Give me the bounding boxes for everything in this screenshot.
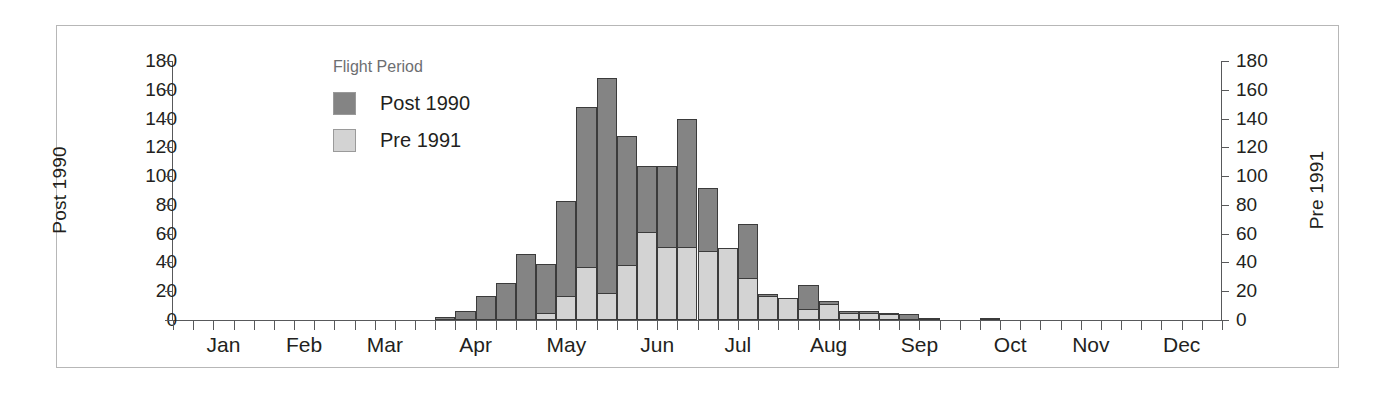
legend-label-pre-1991: Pre 1991 <box>380 129 461 152</box>
x-tick-mark <box>375 321 376 330</box>
bar-pre-week-28 <box>718 248 738 320</box>
x-tick-mark <box>1182 321 1183 330</box>
left-y-tick-mark <box>165 147 172 148</box>
left-y-tick-mark <box>165 205 172 206</box>
right-y-tick-label: 100 <box>1236 166 1268 186</box>
bar-pre-week-27 <box>698 251 718 320</box>
x-tick-mark <box>254 321 255 330</box>
x-tick-mark <box>940 321 941 330</box>
x-tick-mark <box>1061 321 1062 330</box>
right-y-tick-mark <box>1222 234 1229 235</box>
right-y-tick-mark <box>1222 147 1229 148</box>
x-tick-mark <box>496 321 497 330</box>
x-tick-mark <box>1101 321 1102 330</box>
x-tick-mark <box>879 321 880 330</box>
x-tick-mark <box>314 321 315 330</box>
x-tick-mark <box>899 321 900 330</box>
left-y-tick-mark <box>165 234 172 235</box>
x-tick-mark <box>698 321 699 330</box>
bar-post-week-14 <box>435 317 455 320</box>
x-tick-mark <box>1222 321 1223 330</box>
x-tick-mark <box>294 321 295 330</box>
x-tick-mark <box>334 321 335 330</box>
bar-pre-week-31 <box>778 298 798 320</box>
legend-title: Flight Period <box>333 58 470 76</box>
x-axis-line <box>172 320 1222 321</box>
x-tick-mark <box>455 321 456 330</box>
right-y-tick-label: 180 <box>1236 51 1268 71</box>
x-tick-mark <box>1040 321 1041 330</box>
bar-pre-week-29 <box>738 278 758 320</box>
right-y-tick-mark <box>1222 90 1229 91</box>
x-tick-mark <box>576 321 577 330</box>
x-tick-mark <box>718 321 719 330</box>
x-month-label-nov: Nov <box>1072 333 1109 357</box>
bar-pre-week-20 <box>556 296 576 320</box>
x-month-label-jun: Jun <box>640 333 674 357</box>
x-tick-mark <box>919 321 920 330</box>
x-month-label-jan: Jan <box>206 333 240 357</box>
x-tick-mark <box>1161 321 1162 330</box>
left-y-tick-mark <box>165 176 172 177</box>
x-tick-mark <box>859 321 860 330</box>
right-y-tick-mark <box>1222 176 1229 177</box>
bar-post-week-22 <box>597 78 617 320</box>
bar-pre-week-30 <box>758 296 778 320</box>
bar-pre-week-24 <box>637 232 657 320</box>
x-tick-mark <box>395 321 396 330</box>
left-y-tick-mark <box>165 291 172 292</box>
bar-pre-week-33 <box>819 304 839 320</box>
bar-pre-week-35 <box>859 313 879 320</box>
bar-post-week-38 <box>919 318 939 320</box>
x-tick-mark <box>1081 321 1082 330</box>
x-tick-mark <box>738 321 739 330</box>
right-y-tick-label: 80 <box>1236 195 1257 215</box>
x-tick-mark <box>657 321 658 330</box>
right-y-tick-label: 140 <box>1236 109 1268 129</box>
right-y-tick-label: 120 <box>1236 137 1268 157</box>
plot-area <box>173 61 1222 320</box>
legend-label-post-1990: Post 1990 <box>380 92 470 115</box>
x-month-label-mar: Mar <box>367 333 403 357</box>
x-tick-mark <box>173 321 174 330</box>
x-month-label-aug: Aug <box>810 333 847 357</box>
x-tick-mark <box>819 321 820 330</box>
left-y-tick-mark <box>165 320 172 321</box>
left-y-tick-mark <box>165 61 172 62</box>
right-y-tick-label: 20 <box>1236 281 1257 301</box>
right-y-tick-label: 0 <box>1236 310 1247 330</box>
x-tick-mark <box>274 321 275 330</box>
x-tick-mark <box>1000 321 1001 330</box>
x-month-label-oct: Oct <box>994 333 1027 357</box>
x-tick-mark <box>415 321 416 330</box>
x-tick-mark <box>617 321 618 330</box>
x-tick-mark <box>778 321 779 330</box>
x-tick-mark <box>193 321 194 330</box>
x-tick-mark <box>960 321 961 330</box>
bar-post-week-16 <box>476 296 496 320</box>
bar-pre-week-21 <box>576 267 596 320</box>
right-y-tick-mark <box>1222 205 1229 206</box>
bar-post-week-15 <box>455 311 475 320</box>
left-y-tick-mark <box>165 262 172 263</box>
x-tick-mark <box>758 321 759 330</box>
legend-item-pre-1991: Pre 1991 <box>333 129 470 152</box>
x-month-label-feb: Feb <box>286 333 322 357</box>
left-axis-title: Post 1990 <box>49 146 71 233</box>
x-tick-mark <box>1121 321 1122 330</box>
right-y-tick-mark <box>1222 262 1229 263</box>
x-tick-mark <box>597 321 598 330</box>
x-tick-mark <box>1020 321 1021 330</box>
legend-item-post-1990: Post 1990 <box>333 92 470 115</box>
x-month-label-dec: Dec <box>1163 333 1200 357</box>
bar-post-week-41 <box>980 318 1000 320</box>
bar-pre-week-19 <box>536 313 556 320</box>
right-y-tick-mark <box>1222 61 1229 62</box>
right-y-tick-mark <box>1222 119 1229 120</box>
bar-pre-week-26 <box>677 247 697 320</box>
x-tick-mark <box>213 321 214 330</box>
x-tick-mark <box>516 321 517 330</box>
right-y-tick-label: 160 <box>1236 80 1268 100</box>
bar-post-week-19 <box>536 264 556 320</box>
x-tick-mark <box>677 321 678 330</box>
